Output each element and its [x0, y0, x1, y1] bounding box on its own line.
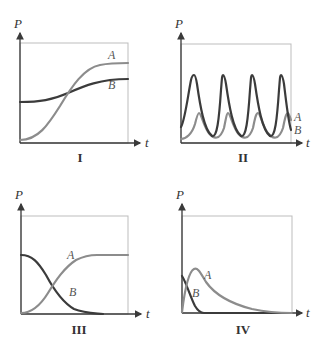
panel-iii: P t A B III: [14, 187, 150, 337]
curve-label-a: A: [66, 248, 75, 262]
curve-label-a: A: [107, 48, 116, 62]
curve-label-a: A: [203, 268, 212, 282]
x-axis-label: t: [146, 306, 150, 321]
curve-b: [21, 255, 103, 314]
panel-numeral: I: [77, 150, 82, 165]
x-axis-label: t: [145, 135, 149, 150]
x-axis-label: t: [306, 135, 310, 150]
x-axis-label: t: [306, 305, 310, 320]
y-axis-label: P: [174, 16, 183, 31]
panel-ii: P t A B II: [174, 16, 310, 165]
panel-numeral: II: [238, 150, 248, 165]
curve-label-b: B: [108, 78, 116, 92]
curve-label-b: B: [69, 285, 77, 299]
y-axis-label: P: [13, 16, 22, 31]
curve-b: [181, 75, 291, 136]
curve-label-b: B: [192, 286, 200, 300]
panel-iv: P t A B IV: [175, 187, 310, 337]
panel-numeral: IV: [236, 322, 251, 337]
panel-numeral: III: [71, 322, 86, 337]
figure-canvas: P t A B I P t A B II P t A B III P: [0, 0, 321, 347]
panel-i: P t A B I: [13, 16, 149, 165]
curve-label-a: A: [293, 110, 302, 124]
panel-frame: [21, 216, 128, 314]
curve-label-b: B: [294, 123, 302, 137]
y-axis-label: P: [14, 187, 23, 202]
y-axis-label: P: [175, 187, 184, 202]
